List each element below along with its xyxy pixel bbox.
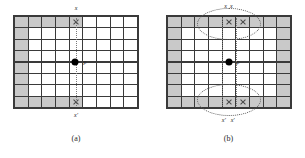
grid-cell (264, 74, 277, 84)
grid-cell (236, 85, 249, 95)
panel-a-bottom-label: x' (74, 112, 78, 118)
grid-cell (29, 74, 42, 84)
grid-cell (124, 85, 137, 95)
grid-cell (97, 28, 110, 38)
grid-cell-shaded (209, 97, 222, 107)
panel-b-bottom-label-right: x' (231, 117, 235, 123)
grid-cell (195, 63, 208, 73)
grid-cell-shaded (15, 51, 28, 61)
grid-cell-shaded (168, 40, 181, 50)
grid-cell (124, 63, 137, 73)
grid-cell (111, 28, 124, 38)
grid-cell-shaded (168, 97, 181, 107)
grid-cell (264, 28, 277, 38)
panel-b-top-label-left: x (224, 3, 227, 9)
grid-cell (209, 74, 222, 84)
grid-cell-shaded (209, 17, 222, 27)
grid-cell (264, 40, 277, 50)
grid-cell (236, 74, 249, 84)
grid-cell-shaded (168, 63, 181, 73)
grid-cell (56, 63, 69, 73)
grid-cell (209, 51, 222, 61)
grid-cell-shaded (277, 17, 290, 27)
grid-cell (124, 51, 137, 61)
grid-cell-shaded (15, 97, 28, 107)
grid-cell (97, 74, 110, 84)
grid-cell-shaded (182, 97, 195, 107)
panel-b-bottom-label-left: x' (222, 117, 226, 123)
grid-cell (264, 63, 277, 73)
grid-cell (124, 28, 137, 38)
grid-cell-shaded (15, 74, 28, 84)
grid-cell (83, 40, 96, 50)
grid-cell (83, 28, 96, 38)
grid-cell (250, 51, 263, 61)
grid-cell (195, 85, 208, 95)
grid-cell-shaded (56, 97, 69, 107)
grid-cell-shaded (15, 28, 28, 38)
grid-cell (83, 85, 96, 95)
grid-cell (97, 17, 110, 27)
grid-cell-shaded (250, 97, 263, 107)
figure-root: x p x' (a) x x p x' x' (b) (0, 0, 305, 158)
grid-cell-shaded (264, 97, 277, 107)
grid-cell-shaded (277, 85, 290, 95)
grid-cell (264, 51, 277, 61)
grid-cell-shaded (42, 97, 55, 107)
grid-cell (182, 51, 195, 61)
grid-cell-shaded (168, 28, 181, 38)
panel-a-top-label: x (75, 5, 78, 11)
grid-cell (97, 40, 110, 50)
panel-b-left-guide-line (222, 18, 223, 106)
panel-a-center-point (72, 59, 79, 66)
grid-cell (209, 85, 222, 95)
grid-cell-shaded (29, 97, 42, 107)
grid-cell (250, 28, 263, 38)
grid-cell (111, 17, 124, 27)
grid-cell (111, 63, 124, 73)
grid-cell-shaded (277, 74, 290, 84)
grid-cell-marked (236, 97, 249, 107)
grid-cell (111, 85, 124, 95)
grid-cell (182, 63, 195, 73)
grid-cell-shaded (277, 63, 290, 73)
grid-cell (195, 28, 208, 38)
grid-cell (29, 85, 42, 95)
grid-cell-marked (223, 17, 236, 27)
grid-cell (111, 74, 124, 84)
grid-cell-shaded (264, 17, 277, 27)
grid-cell (250, 85, 263, 95)
grid-cell (209, 40, 222, 50)
grid-cell (97, 63, 110, 73)
grid-cell (182, 85, 195, 95)
grid-cell-shaded (168, 74, 181, 84)
grid-cell (182, 74, 195, 84)
grid-cell (124, 17, 137, 27)
grid-cell (250, 40, 263, 50)
panel-a-center-point-label: p (83, 59, 86, 65)
grid-cell (42, 63, 55, 73)
grid-cell-shaded (29, 17, 42, 27)
grid-cell (56, 51, 69, 61)
grid-cell (42, 85, 55, 95)
grid-cell (29, 51, 42, 61)
grid-cell (29, 63, 42, 73)
grid-cell (83, 17, 96, 27)
panel-a-caption: (a) (0, 134, 152, 143)
grid-cell (195, 51, 208, 61)
grid-cell-shaded (168, 17, 181, 27)
grid-cell (56, 85, 69, 95)
grid-cell (42, 51, 55, 61)
grid-cell-shaded (195, 17, 208, 27)
grid-cell-shaded (277, 40, 290, 50)
panel-b-center-point (226, 59, 233, 66)
grid-cell-shaded (56, 17, 69, 27)
panel-b-caption: (b) (152, 134, 305, 143)
grid-cell (29, 28, 42, 38)
grid-cell-shaded (277, 97, 290, 107)
grid-cell (223, 40, 236, 50)
grid-cell-shaded (15, 85, 28, 95)
grid-cell-shaded (42, 17, 55, 27)
grid-cell (83, 97, 96, 107)
grid-cell-shaded (15, 63, 28, 73)
